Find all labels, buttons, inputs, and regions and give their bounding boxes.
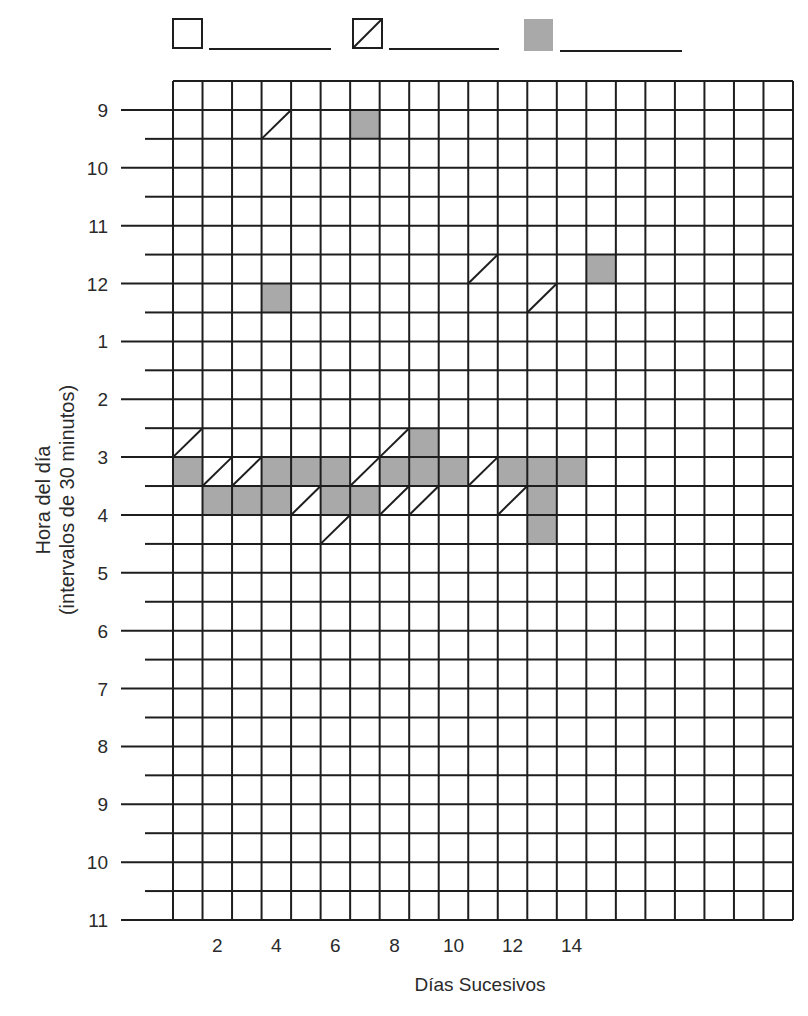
filled-cell [262,284,292,313]
x-tick-label: 2 [212,935,223,956]
filled-cell [586,255,616,284]
x-tick-label: 10 [443,935,464,956]
y-tick-label: 6 [97,621,108,642]
filled-cell [380,457,410,486]
diagonal-cell [380,486,410,515]
legend [173,19,682,51]
diagonal-cell [527,284,557,313]
filled-cell [321,486,351,515]
y-tick-label: 11 [88,910,108,931]
filled-cell [262,457,292,486]
x-tick-label: 8 [389,935,400,956]
diagonal-cell [232,457,262,486]
filled-cell [350,486,380,515]
diagonal-cell [291,486,321,515]
diagonal-cell [173,428,203,457]
y-axis-title: Hora del día (intervalos de 30 minutos) [32,385,78,615]
y-tick-label: 1 [97,331,108,352]
diagonal-cell [468,457,498,486]
x-tick-label: 6 [330,935,341,956]
y-axis-title-line-1: Hora del día [32,445,54,555]
filled-cell [409,428,439,457]
filled-cell [203,486,233,515]
cell-layer [173,110,616,544]
y-tick-label: 3 [97,447,108,468]
y-tick-label: 9 [97,794,108,815]
filled-cell [557,457,587,486]
filled-cell [527,486,557,515]
legend-empty-swatch [173,19,202,48]
filled-cell [173,457,203,486]
filled-cell [262,486,292,515]
diagonal-cell [498,486,528,515]
y-tick-label: 11 [88,216,108,237]
x-tick-label: 14 [561,935,583,956]
y-tick-label: 10 [87,852,108,873]
x-axis-title: Días Sucesivos [415,974,546,995]
filled-cell [291,457,321,486]
y-tick-label: 10 [87,158,108,179]
y-tick-label: 5 [97,563,108,584]
diagonal-cell [350,457,380,486]
diagonal-cell [380,428,410,457]
y-tick-label: 12 [87,274,108,295]
filled-cell [439,457,469,486]
y-tick-label: 7 [97,679,108,700]
y-axis: 91011121234567891011 [87,100,173,931]
filled-cell [527,457,557,486]
filled-cell [527,515,557,544]
x-tick-label: 12 [502,935,523,956]
y-axis-title-line-2: (intervalos de 30 minutos) [56,385,78,615]
x-tick-label: 4 [271,935,282,956]
filled-cell [350,110,380,139]
diagonal-cell [321,515,351,544]
x-axis: 2468101214 [212,935,583,956]
y-tick-label: 2 [97,389,108,410]
diagonal-cell [409,486,439,515]
diagonal-cell [262,110,292,139]
diagonal-cell [468,255,498,284]
y-tick-label: 8 [97,736,108,757]
diagonal-cell [203,457,233,486]
legend-diagonal-stroke [353,19,382,48]
filled-cell [409,457,439,486]
filled-cell [232,486,262,515]
y-tick-label: 4 [97,505,108,526]
sleep-log-chart: 91011121234567891011 2468101214 Días Suc… [0,0,808,1016]
filled-cell [321,457,351,486]
filled-cell [498,457,528,486]
legend-filled-swatch [524,19,553,51]
y-tick-label: 9 [97,100,108,121]
